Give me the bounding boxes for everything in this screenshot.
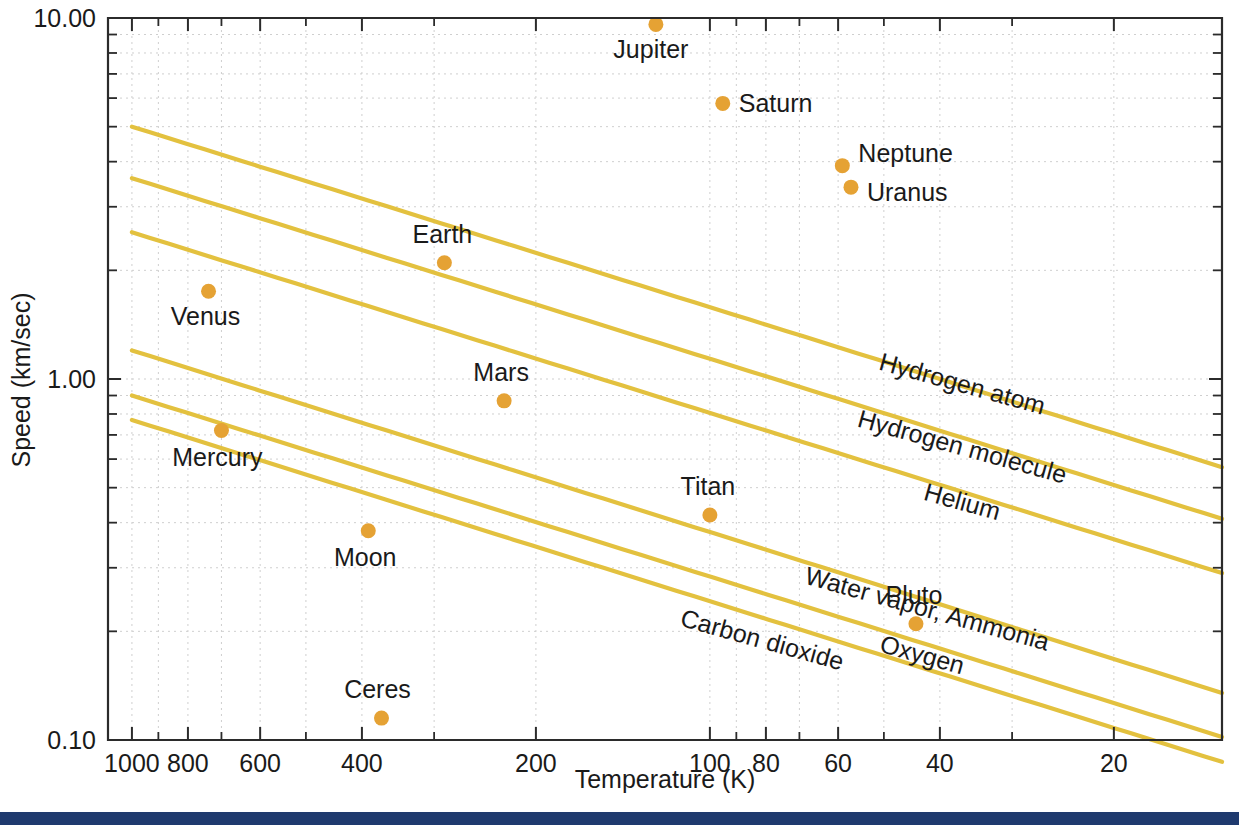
escape-velocity-figure: 10008006004002001008060402010.001.000.10…: [0, 0, 1239, 825]
y-axis-title: Speed (km/sec): [7, 292, 35, 467]
y-tick-label-1.00: 1.00: [47, 365, 96, 393]
point-uranus: [843, 180, 858, 195]
point-label-mars: Mars: [473, 358, 529, 386]
curve-label-carbon-dioxide: Carbon dioxide: [678, 603, 848, 675]
point-moon: [361, 523, 376, 538]
x-tick-label-80: 80: [752, 749, 780, 777]
point-mars: [497, 393, 512, 408]
curve-label-helium: Helium: [921, 477, 1003, 525]
point-label-moon: Moon: [334, 543, 397, 571]
chart-canvas: 10008006004002001008060402010.001.000.10…: [0, 0, 1239, 825]
x-tick-label-800: 800: [167, 749, 209, 777]
escape-velocity-curves: [132, 127, 1222, 762]
axis-ticks: [108, 18, 1222, 740]
x-tick-label-40: 40: [926, 749, 954, 777]
x-tick-label-400: 400: [341, 749, 383, 777]
y-tick-label-0.10: 0.10: [47, 726, 96, 754]
point-label-titan: Titan: [681, 472, 736, 500]
x-tick-label-1000: 1000: [104, 749, 160, 777]
body-labels: JupiterSaturnNeptuneUranusEarthVenusMerc…: [171, 35, 953, 703]
point-label-saturn: Saturn: [739, 89, 813, 117]
x-tick-label-200: 200: [515, 749, 557, 777]
gridlines: [108, 18, 1222, 740]
curve-label-oxygen: Oxygen: [877, 629, 968, 679]
point-venus: [201, 284, 216, 299]
curve-oxygen: [132, 396, 1222, 737]
axis-frame: [108, 18, 1222, 740]
point-neptune: [835, 158, 850, 173]
point-label-uranus: Uranus: [867, 178, 948, 206]
point-earth: [437, 255, 452, 270]
x-tick-label-600: 600: [239, 749, 281, 777]
x-tick-label-60: 60: [824, 749, 852, 777]
point-ceres: [374, 711, 389, 726]
point-titan: [702, 508, 717, 523]
point-label-mercury: Mercury: [172, 443, 263, 471]
x-axis-title: Temperature (K): [575, 765, 756, 793]
point-label-neptune: Neptune: [858, 139, 953, 167]
point-saturn: [715, 96, 730, 111]
footer-bar: [0, 812, 1239, 825]
point-label-ceres: Ceres: [344, 675, 411, 703]
curve-hydrogen-atom: [132, 127, 1222, 467]
point-label-pluto: Pluto: [885, 581, 942, 609]
point-mercury: [214, 423, 229, 438]
point-label-jupiter: Jupiter: [613, 35, 688, 63]
point-label-earth: Earth: [412, 220, 472, 248]
point-jupiter: [648, 17, 663, 32]
curve-label-hydrogen-atom: Hydrogen atom: [876, 347, 1048, 420]
x-tick-label-20: 20: [1100, 749, 1128, 777]
body-points: [201, 17, 923, 726]
y-tick-label-10.00: 10.00: [33, 4, 96, 32]
point-label-venus: Venus: [171, 302, 241, 330]
